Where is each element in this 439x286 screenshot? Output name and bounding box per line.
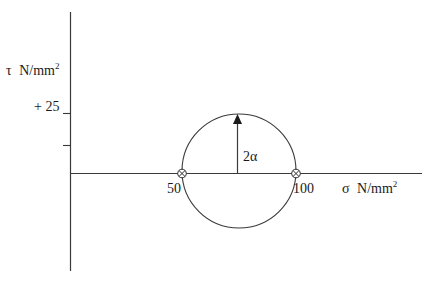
mohr-circle — [182, 114, 296, 228]
tau-tick-label: + 25 — [34, 99, 59, 114]
radius-angle-label: 2α — [243, 149, 258, 164]
point-100-label: 100 — [293, 181, 314, 196]
tau-axis-label: τ N/mm2 — [6, 61, 59, 78]
point-100-marker — [292, 169, 301, 178]
point-50-marker — [178, 169, 187, 178]
mohr-circle-diagram: τ N/mm2 + 25 50 100 σ N/mm2 2α — [0, 0, 439, 286]
sigma-axis-label: σ N/mm2 — [342, 179, 397, 196]
arrowhead-icon — [233, 114, 242, 124]
point-50-label: 50 — [167, 181, 181, 196]
